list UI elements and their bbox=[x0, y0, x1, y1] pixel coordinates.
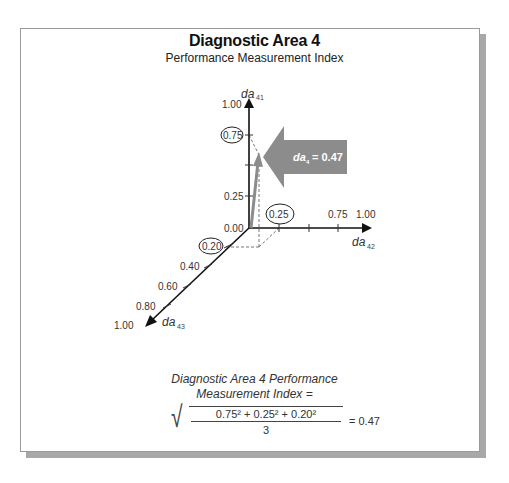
axis-label-da43: da bbox=[162, 315, 176, 329]
callout-value: = 0.47 bbox=[312, 151, 343, 163]
axis-sub-da41: 41 bbox=[256, 94, 264, 101]
formula-numerator: 0.75² + 0.25² + 0.20² bbox=[191, 408, 341, 422]
tick-da41-075: 0.75 bbox=[223, 130, 243, 141]
callout-arrow: da 4 = 0.47 bbox=[263, 126, 347, 188]
axis-sub-da43: 43 bbox=[177, 323, 185, 330]
tick-da43-040: 0.40 bbox=[180, 261, 200, 272]
formula-result: = 0.47 bbox=[349, 415, 380, 427]
tick-da41-100: 1.00 bbox=[222, 99, 242, 110]
tick-da43-060: 0.60 bbox=[158, 281, 178, 292]
tick-da41-025: 0.25 bbox=[224, 191, 244, 202]
result-vector bbox=[251, 152, 263, 228]
axis-da42 bbox=[249, 223, 372, 233]
tick-da42-075: 0.75 bbox=[328, 209, 348, 220]
tick-da43-080: 0.80 bbox=[136, 301, 156, 312]
fraction: 0.75² + 0.25² + 0.20² 3 bbox=[191, 408, 341, 436]
axis-label-da42: da bbox=[352, 235, 366, 249]
tick-da43-020: 0.20 bbox=[202, 241, 222, 252]
tick-da43-100: 1.00 bbox=[114, 320, 134, 331]
tick-da42-025: 0.25 bbox=[269, 209, 289, 220]
sqrt-icon: √ bbox=[171, 400, 183, 434]
formula-caption: Diagnostic Area 4 Performance Measuremen… bbox=[0, 372, 509, 402]
tick-da42-100: 1.00 bbox=[356, 209, 376, 220]
axis-sub-da42: 42 bbox=[367, 243, 375, 250]
axis-da43 bbox=[145, 228, 249, 327]
radical-vinculum bbox=[189, 406, 343, 407]
callout-label: da bbox=[293, 151, 306, 163]
tick-da41-000: 0.00 bbox=[224, 223, 244, 234]
formula-denominator: 3 bbox=[191, 422, 341, 436]
formula-caption-line1: Diagnostic Area 4 Performance bbox=[0, 372, 509, 387]
axis-label-da41: da bbox=[241, 87, 255, 101]
formula-caption-line2: Measurement Index = bbox=[0, 387, 509, 402]
